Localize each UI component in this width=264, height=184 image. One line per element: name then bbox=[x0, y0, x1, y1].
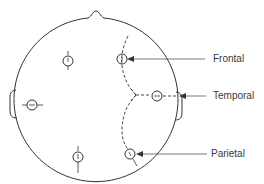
left-ear bbox=[10, 90, 17, 118]
frontal-boundary bbox=[122, 36, 136, 95]
electrode-right-parietal bbox=[125, 149, 137, 166]
pointer-temporal bbox=[179, 93, 206, 99]
electrode-left-parietal bbox=[73, 146, 83, 173]
parietal-boundary bbox=[122, 95, 136, 149]
y-junction-stub bbox=[131, 89, 136, 95]
y-junction-stub-2 bbox=[131, 95, 136, 101]
lobe-boundaries bbox=[122, 36, 178, 149]
label-parietal: Parietal bbox=[211, 148, 245, 160]
label-temporal: Temporal bbox=[213, 90, 254, 102]
nose bbox=[88, 11, 104, 18]
pointer-parietal bbox=[136, 151, 207, 157]
electrode-right-temporal bbox=[152, 91, 162, 101]
electrode-left-temporal bbox=[22, 100, 43, 110]
electrode-left-frontal bbox=[63, 51, 73, 70]
label-frontal: Frontal bbox=[213, 53, 244, 65]
